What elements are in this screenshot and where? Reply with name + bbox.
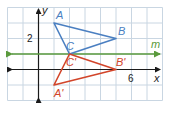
vertex-label-c: C [66,40,74,52]
x-axis-label: x [153,72,160,84]
vertex-label-b-prime: B' [116,56,126,68]
vertex-label-b: B [118,25,125,37]
reflection-diagram: y x 2 6 m A B C A' B' C' [0,0,171,114]
y-axis-label: y [41,4,49,16]
line-m-label: m [151,38,160,50]
x-tick-label-6: 6 [128,73,134,84]
coordinate-plane-figure: y x 2 6 m A B C A' B' C' [0,0,171,114]
vertex-label-a: A [55,9,63,21]
y-tick-label-2: 2 [27,33,33,44]
vertex-label-a-prime: A' [53,87,64,99]
vertex-label-c-prime: C' [66,56,77,68]
